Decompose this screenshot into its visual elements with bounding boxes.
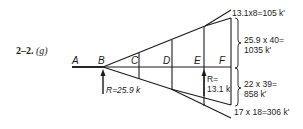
point-F: F: [219, 56, 225, 65]
upper-outer-line: [205, 18, 231, 26]
point-B: B: [98, 56, 105, 65]
point-C: C: [131, 56, 138, 65]
reaction-label-B: R=25.9 k: [106, 86, 140, 96]
moment-label-2: 25.9 x 40= 1035 k': [244, 36, 284, 55]
brace-upper: [235, 18, 241, 68]
point-E: E: [194, 56, 201, 65]
problem-number: 2–2.: [16, 45, 34, 56]
problem-label: 2–2. (g): [16, 46, 48, 56]
reaction-label-E: R= 13.1 k: [207, 75, 230, 94]
moment-label-1: 13.1x8=105 k': [232, 9, 285, 19]
brace-lower: [235, 68, 241, 106]
problem-part: (g): [36, 45, 48, 56]
moment-label-3: 22 x 39= 858 k': [244, 80, 277, 99]
point-A: A: [72, 56, 79, 65]
point-D: D: [163, 56, 170, 65]
moment-label-4: 17 x 18=306 k': [234, 108, 289, 118]
